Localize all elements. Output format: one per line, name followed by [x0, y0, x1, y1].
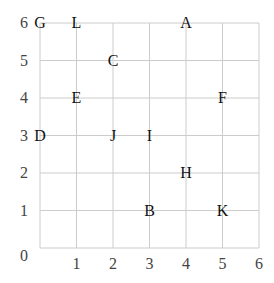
y-tick-label: 1	[20, 202, 28, 220]
point-label-f: F	[218, 89, 227, 107]
x-tick-label: 3	[146, 255, 154, 273]
point-label-a: A	[180, 14, 192, 32]
point-label-j: J	[110, 127, 116, 145]
point-label-i: I	[147, 127, 152, 145]
point-label-d: D	[34, 127, 46, 145]
x-tick-label: 5	[219, 255, 227, 273]
point-label-g: G	[34, 14, 46, 32]
point-label-b: B	[144, 202, 155, 220]
y-tick-label: 2	[20, 164, 28, 182]
point-label-k: K	[217, 202, 229, 220]
point-label-c: C	[108, 52, 119, 70]
point-label-e: E	[72, 89, 82, 107]
x-tick-label: 4	[182, 255, 190, 273]
y-tick-label: 4	[20, 89, 28, 107]
x-tick-label: 6	[255, 255, 263, 273]
y-tick-label: 0	[20, 247, 28, 265]
x-tick-label: 2	[109, 255, 117, 273]
y-tick-label: 3	[20, 127, 28, 145]
y-tick-label: 5	[20, 52, 28, 70]
point-label-h: H	[180, 164, 192, 182]
point-label-l: L	[72, 14, 82, 32]
x-tick-label: 1	[73, 255, 81, 273]
y-tick-label: 6	[20, 14, 28, 32]
